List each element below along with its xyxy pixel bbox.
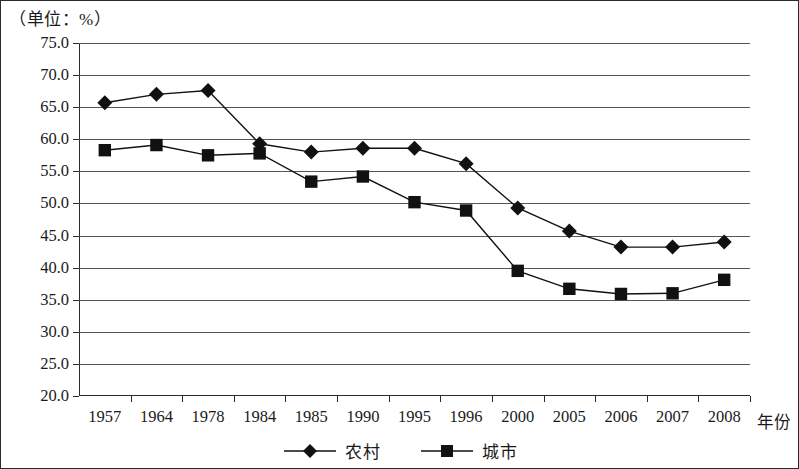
y-axis-tick-label: 60.0	[9, 129, 69, 149]
x-axis-tick	[698, 396, 699, 402]
x-axis-tick	[337, 396, 338, 402]
x-axis-tick	[285, 396, 286, 402]
y-axis-tick-label: 20.0	[9, 386, 69, 406]
x-axis-tick-label: 1984	[243, 407, 276, 427]
data-point-square	[718, 274, 730, 286]
x-axis-tick	[389, 396, 390, 402]
y-axis-tick-label: 55.0	[9, 161, 69, 181]
data-point-diamond	[149, 87, 164, 102]
series-rural	[97, 83, 731, 255]
plot-area: 75.070.065.060.055.050.045.040.035.030.0…	[79, 43, 750, 396]
y-axis-tick-label: 65.0	[9, 97, 69, 117]
y-axis-tick-label: 30.0	[9, 322, 69, 342]
x-axis-tick	[131, 396, 132, 402]
series-layer	[79, 43, 750, 396]
x-axis-tick-label: 1985	[295, 407, 328, 427]
x-axis-tick-label: 1978	[192, 407, 225, 427]
y-axis-tick-label: 70.0	[9, 65, 69, 85]
x-axis-tick	[440, 396, 441, 402]
data-point-square	[563, 283, 575, 295]
data-point-diamond	[665, 240, 680, 255]
x-axis-tick	[234, 396, 235, 402]
unit-note: （单位：%）	[9, 5, 111, 30]
x-axis-tick-label: 2000	[501, 407, 534, 427]
data-point-square	[305, 175, 317, 187]
x-axis-tick-label: 1957	[88, 407, 121, 427]
series-line	[105, 90, 724, 247]
legend-label-urban: 城市	[482, 438, 518, 463]
legend-item-rural: 农村	[282, 438, 381, 463]
data-point-square	[202, 149, 214, 161]
y-axis-tick-label: 35.0	[9, 290, 69, 310]
x-axis-tick	[647, 396, 648, 402]
data-point-square	[357, 170, 369, 182]
x-axis-tick	[750, 396, 751, 402]
diamond-marker-icon	[282, 442, 338, 460]
legend-item-urban: 城市	[419, 438, 518, 463]
y-axis-tick	[73, 396, 79, 397]
y-axis-tick-label: 75.0	[9, 33, 69, 53]
data-point-diamond	[97, 95, 112, 110]
data-point-square	[408, 196, 420, 208]
legend-label-rural: 农村	[345, 438, 381, 463]
series-urban	[99, 139, 731, 300]
x-axis-tick-label: 1995	[398, 407, 431, 427]
x-axis-tick-label: 1990	[346, 407, 379, 427]
data-point-square	[615, 288, 627, 300]
x-axis-tick-label: 2007	[656, 407, 689, 427]
square-marker-icon	[419, 442, 475, 460]
series-line	[105, 145, 724, 294]
data-point-square	[460, 204, 472, 216]
data-point-diamond	[304, 145, 319, 160]
data-point-square	[512, 265, 524, 277]
x-axis-tick-label: 1964	[140, 407, 173, 427]
x-axis-title: 年份	[757, 409, 791, 433]
chart-figure: （单位：%） 75.070.065.060.055.050.045.040.03…	[0, 0, 799, 469]
x-axis-tick-label: 2005	[553, 407, 586, 427]
chart-legend: 农村 城市	[1, 438, 798, 463]
x-axis-tick-label: 2008	[708, 407, 741, 427]
y-axis-tick-label: 40.0	[9, 258, 69, 278]
data-point-diamond	[562, 224, 577, 239]
data-point-square	[253, 147, 265, 159]
x-axis-tick-label: 2006	[604, 407, 637, 427]
data-point-diamond	[407, 141, 422, 156]
x-axis-tick	[182, 396, 183, 402]
data-point-square	[666, 287, 678, 299]
data-point-diamond	[355, 141, 370, 156]
y-axis-tick-label: 45.0	[9, 226, 69, 246]
y-axis-tick-label: 25.0	[9, 354, 69, 374]
x-axis-tick	[492, 396, 493, 402]
y-axis-tick-label: 50.0	[9, 193, 69, 213]
x-axis-tick-label: 1996	[450, 407, 483, 427]
x-axis-tick	[595, 396, 596, 402]
data-point-square	[99, 144, 111, 156]
data-point-diamond	[613, 240, 628, 255]
data-point-diamond	[717, 234, 732, 249]
data-point-square	[150, 139, 162, 151]
x-axis-tick	[544, 396, 545, 402]
